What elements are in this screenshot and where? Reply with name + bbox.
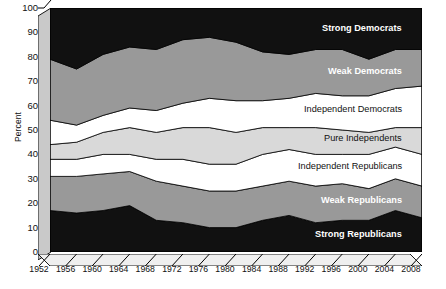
x-tick-2000: 2000 — [343, 265, 373, 274]
y-tick-10: 10 — [12, 223, 38, 233]
x-tick-1972: 1972 — [157, 265, 187, 274]
y-tick-80: 80 — [12, 52, 38, 62]
x-tick-2008: 2008 — [396, 265, 426, 274]
x-tick-1976: 1976 — [183, 265, 213, 274]
x-tick-1992: 1992 — [290, 265, 320, 274]
x-tick-1984: 1984 — [237, 265, 267, 274]
y-tick-0: 0 — [12, 247, 38, 257]
band-label-weak-democrats: Weak Democrats — [328, 67, 402, 76]
x-tick-1960: 1960 — [77, 265, 107, 274]
band-label-pure-independents: Pure Independents — [324, 134, 402, 143]
x-tick-1968: 1968 — [130, 265, 160, 274]
x-axis-tick-labels: 1952195619601964196819721976198019841988… — [0, 265, 446, 281]
x-tick-1996: 1996 — [316, 265, 346, 274]
y-tick-70: 70 — [12, 76, 38, 86]
band-label-strong-republicans: Strong Republicans — [315, 230, 402, 239]
band-label-weak-republicans: Weak Republicans — [321, 196, 402, 205]
band-label-independent-democrats: Independent Democrats — [304, 105, 402, 114]
x-tick-1964: 1964 — [104, 265, 134, 274]
x-tick-1956: 1956 — [51, 265, 81, 274]
band-label-strong-democrats: Strong Democrats — [322, 24, 402, 33]
y-tick-100: 100 — [12, 3, 38, 13]
y-tick-50: 50 — [12, 125, 38, 135]
x-tick-1988: 1988 — [263, 265, 293, 274]
band-label-independent-republicans: Independent Republicans — [298, 162, 402, 171]
chart-figure: Percent 0102030405060708090100 195219561… — [0, 0, 446, 289]
y-tick-30: 30 — [12, 174, 38, 184]
y-tick-90: 90 — [12, 27, 38, 37]
chart-3d-floor — [38, 252, 422, 264]
y-tick-40: 40 — [12, 149, 38, 159]
y-tick-60: 60 — [12, 101, 38, 111]
stacked-area-plot — [50, 8, 422, 252]
y-axis-tick-labels: 0102030405060708090100 — [8, 0, 38, 289]
x-tick-1980: 1980 — [210, 265, 240, 274]
y-tick-20: 20 — [12, 198, 38, 208]
x-tick-1952: 1952 — [24, 265, 54, 274]
x-tick-2004: 2004 — [369, 265, 399, 274]
